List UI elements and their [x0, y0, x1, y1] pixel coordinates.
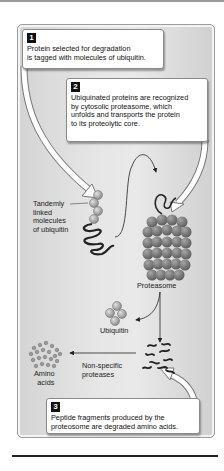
- step2-arrow: [170, 140, 205, 212]
- tandem-ubiquitin-label: Tandemly linked molecules of ubiquitin: [33, 200, 68, 234]
- step-2-callout: 2 Ubiquinated proteins are recognized by…: [66, 78, 208, 142]
- proteasome: [143, 195, 192, 281]
- proteasome-label: Proteasome: [137, 282, 176, 291]
- step-1-callout: 1 Protein selected for degradation is ta…: [22, 29, 164, 69]
- step-3-callout: 3 Peptide fragments produced by the prot…: [46, 398, 200, 434]
- amino-acids-label: Amino acids: [34, 370, 55, 387]
- step3-arrow: [160, 368, 194, 400]
- step-2-text-line: to its proteolytic core.: [71, 119, 140, 128]
- ubiquitin-label: Ubiquitin: [100, 327, 128, 336]
- bottom-rule: [12, 455, 218, 457]
- tagged-protein: [84, 224, 114, 254]
- step-2-badge: 2: [71, 82, 80, 92]
- release-ubiquitin-arrow: [136, 292, 160, 320]
- step-1-text-line: is tagged with molecules of ubiquitin.: [27, 53, 146, 62]
- free-ubiquitin: [106, 302, 127, 326]
- step-3-badge: 3: [51, 402, 60, 412]
- amino-acids: [29, 341, 62, 368]
- step-1-badge: 1: [27, 33, 36, 43]
- proteases-label: Non-specific proteases: [82, 362, 122, 379]
- step-3-text-line: proteosome are degraded amino acids.: [51, 422, 178, 431]
